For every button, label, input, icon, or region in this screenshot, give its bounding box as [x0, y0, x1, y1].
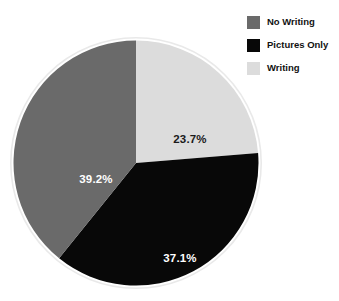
legend-item-label: No Writing — [267, 17, 315, 27]
pie-chart-svg: 23.7%37.1%39.2% — [10, 36, 262, 290]
pie-chart-plot-area: 23.7%37.1%39.2% — [10, 36, 262, 290]
legend-item-writing[interactable]: Writing — [247, 57, 339, 79]
pie-chart-figure: 23.7%37.1%39.2% No Writing Pictures Only… — [0, 0, 339, 301]
slice-label-writing: 23.7% — [173, 133, 207, 145]
legend-item-label: Writing — [267, 63, 300, 73]
slice-label-pictures-only: 37.1% — [163, 252, 197, 264]
chart-legend: No Writing Pictures Only Writing — [247, 11, 339, 80]
slice-label-no-writing: 39.2% — [79, 173, 113, 185]
legend-item-pictures-only[interactable]: Pictures Only — [247, 34, 339, 56]
legend-item-no-writing[interactable]: No Writing — [247, 11, 339, 33]
legend-swatch-icon — [247, 16, 260, 29]
legend-swatch-icon — [247, 62, 260, 75]
pie-slices — [14, 41, 259, 286]
legend-item-label: Pictures Only — [267, 40, 328, 50]
legend-swatch-icon — [247, 39, 260, 52]
